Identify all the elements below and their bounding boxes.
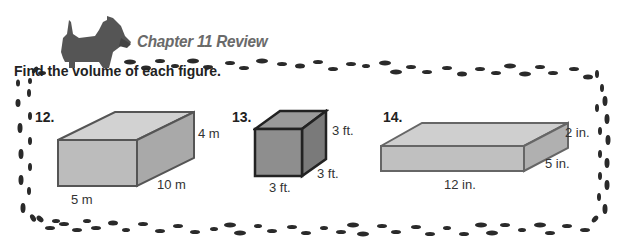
problem-13-width-label: 3 ft.: [269, 180, 291, 195]
chapter-title: Chapter 11 Review: [137, 32, 267, 52]
problem-13-height-label: 3 ft.: [332, 123, 354, 138]
instructions: Find the volume of each figure.: [14, 63, 221, 79]
rectangular-prism-figure: [55, 108, 195, 188]
problem-14-width-label: 12 in.: [444, 177, 476, 192]
problem-13-number: 13.: [232, 109, 251, 125]
problem-12-width-label: 5 m: [71, 192, 93, 207]
problem-12-height-label: 4 m: [198, 126, 220, 141]
flat-prism-figure: [380, 121, 572, 173]
problem-12-number: 12.: [35, 109, 54, 125]
problem-13-depth-label: 3 ft.: [317, 166, 339, 181]
problem-14-depth-label: 5 in.: [545, 156, 570, 171]
problem-14-height-label: 2 in.: [565, 125, 590, 140]
problem-12-depth-label: 10 m: [157, 177, 186, 192]
